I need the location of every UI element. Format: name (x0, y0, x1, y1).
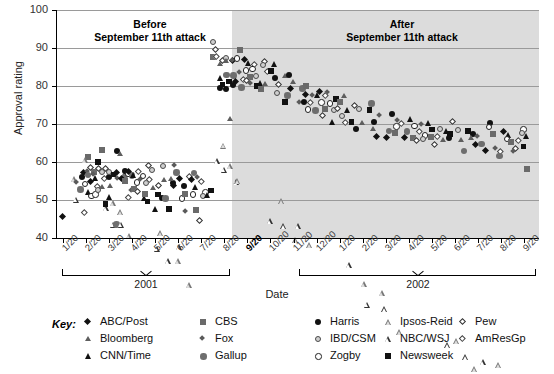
annotation-before-line2: September 11th attack (75, 31, 225, 44)
data-point (155, 182, 162, 189)
data-point (106, 169, 112, 175)
legend-marker-icon (85, 336, 91, 341)
gridline-70 (57, 124, 539, 125)
data-point (114, 175, 120, 181)
data-point (134, 188, 141, 195)
y-tick-50 (52, 200, 56, 201)
data-point (85, 172, 92, 179)
data-point (125, 171, 132, 178)
data-point (187, 176, 194, 183)
legend-item-label: Ipsos-Reid (400, 315, 453, 327)
data-point (140, 173, 147, 180)
data-point (128, 187, 134, 193)
data-point (213, 53, 219, 59)
legend-item-label: Harris (330, 315, 359, 327)
data-point (80, 169, 87, 176)
legend-item-label: CNN/Time (100, 349, 151, 361)
x-axis-title: Date (0, 288, 554, 300)
data-point (182, 208, 188, 214)
annotation-after-line1: After (312, 18, 492, 31)
data-point (92, 175, 98, 181)
data-point (131, 186, 137, 192)
annotation-after: After September 11th attack (312, 18, 492, 44)
data-point (217, 61, 223, 66)
data-point (219, 57, 226, 64)
data-point (193, 207, 199, 213)
data-point (110, 200, 116, 206)
data-point (107, 183, 113, 188)
gridline-100 (57, 10, 539, 11)
data-point (173, 169, 180, 176)
legend-item-label: Zogby (330, 349, 361, 361)
data-point (149, 167, 155, 173)
data-point (160, 163, 166, 169)
data-point (91, 169, 97, 175)
data-point (81, 209, 87, 215)
data-point (118, 175, 125, 182)
data-point (117, 209, 123, 215)
legend-item-label: Pew (475, 315, 496, 327)
data-point (170, 182, 177, 189)
data-point (204, 192, 210, 198)
data-point (71, 176, 77, 182)
data-point (221, 167, 227, 173)
data-point (113, 169, 120, 176)
gridline-90 (57, 48, 539, 49)
data-point (95, 164, 102, 171)
data-point (110, 222, 116, 228)
data-point (152, 206, 158, 212)
legend-item-label: Newsweek (400, 349, 453, 361)
data-point (146, 176, 152, 182)
legend-item-label: Fox (215, 332, 233, 344)
data-point (87, 178, 94, 185)
data-point (79, 174, 85, 180)
data-point (59, 213, 66, 220)
data-point (170, 180, 176, 186)
legend-item-label: Gallup (215, 349, 247, 361)
legend: Key: ABC/PostBloombergCNN/TimeCBSFoxGall… (0, 306, 554, 374)
data-point (113, 221, 120, 228)
y-tick-70 (52, 124, 56, 125)
data-point (77, 186, 84, 193)
legend-item-label: AmResGp (475, 332, 526, 344)
legend-marker-icon (385, 336, 391, 342)
data-point (85, 189, 91, 195)
annotation-after-line2: September 11th attack (312, 31, 492, 44)
gridline-60 (57, 162, 539, 163)
annotation-before-line1: Before (75, 18, 225, 31)
data-point (198, 178, 204, 184)
data-point (91, 171, 97, 177)
data-point (92, 191, 99, 198)
data-point (168, 176, 174, 181)
data-point (118, 222, 124, 228)
data-point (84, 168, 90, 174)
data-point (226, 79, 232, 85)
y-tick-60 (52, 162, 56, 163)
data-point (102, 165, 109, 172)
data-point (217, 75, 223, 81)
y-tick-90 (52, 48, 56, 49)
legend-marker-icon (459, 335, 465, 341)
legend-item-label: IBD/CSM (330, 332, 376, 344)
data-point (192, 184, 198, 190)
legend-marker-icon (199, 335, 205, 341)
data-point (99, 184, 105, 189)
data-point (122, 178, 128, 184)
data-point (129, 172, 136, 179)
gridline-80 (57, 86, 539, 87)
legend-marker-icon (200, 319, 206, 325)
data-point (111, 172, 117, 178)
data-point (223, 55, 229, 61)
data-point (82, 181, 89, 188)
data-point (196, 217, 203, 224)
plot-area: Before September 11th attack After Septe… (56, 10, 538, 238)
legend-marker-icon (85, 353, 91, 359)
data-point (137, 177, 143, 183)
data-point (155, 192, 161, 198)
data-point (88, 193, 95, 200)
legend-key-label: Key: (52, 318, 76, 330)
data-point (122, 173, 129, 180)
data-point (114, 148, 120, 154)
data-point (165, 258, 171, 264)
legend-marker-icon (459, 318, 466, 325)
